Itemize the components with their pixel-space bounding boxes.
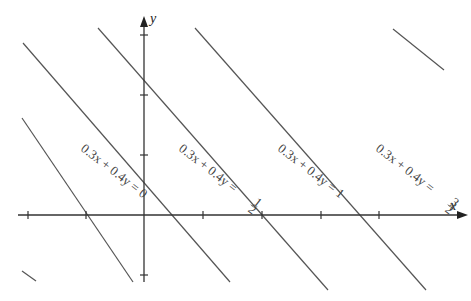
level-line	[393, 29, 444, 70]
svg-text:0.3x + 0.4y = 1: 0.3x + 0.4y = 1	[275, 140, 347, 200]
level-line	[22, 118, 133, 282]
x-axis-arrow-icon	[457, 211, 468, 219]
level-line	[22, 271, 36, 281]
svg-text:0.3x + 0.4y =: 0.3x + 0.4y =	[373, 140, 438, 195]
level-lines-diagram: x y 0.3x + 0.4y = 00.3x + 0.4y = 120.3x …	[0, 0, 471, 301]
level-lines	[22, 28, 444, 290]
line-label: 0.3x + 0.4y = 0	[78, 140, 150, 200]
y-axis-label: y	[148, 11, 157, 26]
line-labels: 0.3x + 0.4y = 00.3x + 0.4y = 120.3x + 0.…	[78, 138, 462, 217]
line-label: 0.3x + 0.4y = 32	[370, 138, 463, 217]
y-axis-arrow-icon	[140, 16, 148, 27]
line-label: 0.3x + 0.4y = 12	[173, 138, 266, 217]
svg-text:0.3x + 0.4y =: 0.3x + 0.4y =	[176, 140, 241, 195]
diagram-canvas: x y 0.3x + 0.4y = 00.3x + 0.4y = 120.3x …	[0, 0, 471, 301]
svg-text:0.3x + 0.4y = 0: 0.3x + 0.4y = 0	[78, 140, 150, 200]
line-label: 0.3x + 0.4y = 1	[275, 140, 347, 200]
